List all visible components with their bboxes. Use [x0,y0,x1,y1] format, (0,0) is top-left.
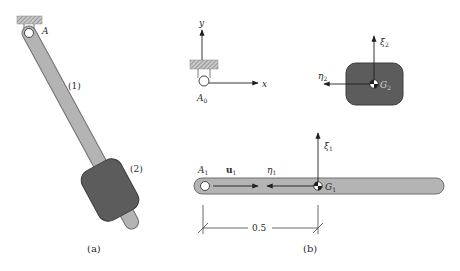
body-1-free: A1 u1 η1 ξ1 G1 0.5 [194,133,444,234]
pivot-a1 [201,182,210,191]
cg-1-icon [314,182,322,190]
label-eta1: η1 [267,165,276,176]
dimension-value: 0.5 [252,223,267,233]
ground-frame: y x A0 [190,18,267,104]
mechanism-diagram: A (1) (2) (a) y x A0 [0,0,460,271]
label-a1: A1 [197,165,208,176]
panel-b: y x A0 ξ2 η2 G2 [190,18,444,254]
panel-a: A (1) (2) (a) [17,16,143,254]
dimension-line: 0.5 [198,205,323,234]
label-a-pivot: A [41,26,49,36]
label-a0: A0 [196,93,208,104]
origin-a0 [199,76,209,86]
label-u1: u1 [226,165,236,176]
label-body-2: (2) [130,164,143,174]
label-xi1: ξ1 [324,141,333,152]
cg-2-icon [370,80,378,88]
label-y: y [198,18,205,28]
body-2-free: ξ2 η2 G2 [318,36,403,105]
caption-a: (a) [87,243,101,254]
label-x: x [262,79,267,89]
ground-support-b [190,60,218,69]
label-eta2: η2 [318,71,327,82]
label-xi2: ξ2 [380,37,389,48]
label-body-1: (1) [68,81,81,91]
pivot-a [25,29,34,38]
ground-support-a [17,16,42,24]
caption-b: (b) [303,243,317,254]
